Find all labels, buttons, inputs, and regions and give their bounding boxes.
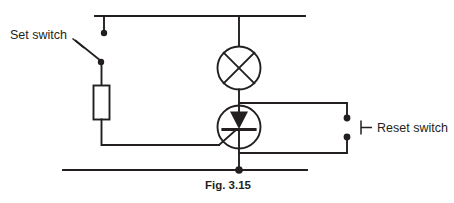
set-switch-label: Set switch [10,28,67,42]
set-switch-top-terminal-dot [101,30,107,36]
reset-switch-leader [361,121,372,135]
figure-caption: Fig. 3.15 [205,179,252,191]
lamp-symbol [218,47,261,90]
set-switch-leader-line [73,39,85,49]
reset-switch-upper-contact-dot[interactable] [344,115,351,122]
circuit-diagram: Set switch Reset switch Fig. 3.15 [0,0,454,203]
gate-resistor-body [94,86,110,120]
gate-wire [102,120,220,146]
thyristor-symbol [218,106,261,149]
reset-switch-label: Reset switch [377,121,448,135]
circuit-svg: Set switch Reset switch Fig. 3.15 [0,0,454,203]
